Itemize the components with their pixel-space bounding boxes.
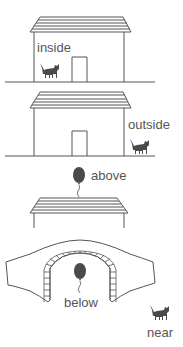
scene-near	[150, 305, 169, 320]
house-roof	[30, 92, 131, 108]
balloon-string	[77, 185, 80, 197]
label-above: above	[91, 169, 126, 182]
cat-icon	[150, 305, 169, 320]
balloon-icon	[74, 263, 86, 281]
house-walls	[5, 32, 155, 82]
cat-icon	[130, 139, 149, 154]
label-below: below	[64, 296, 98, 309]
cat-icon	[40, 63, 59, 78]
balloon-string	[78, 281, 81, 293]
scene-below	[6, 240, 155, 302]
balloon-icon	[73, 167, 85, 185]
label-inside: inside	[37, 41, 71, 54]
house-roof	[30, 17, 131, 32]
label-outside: outside	[128, 118, 170, 131]
house-roof	[30, 198, 128, 213]
scene-inside	[5, 17, 155, 82]
house-walls	[34, 213, 124, 228]
house-walls	[5, 108, 155, 156]
label-near: near	[147, 326, 173, 339]
